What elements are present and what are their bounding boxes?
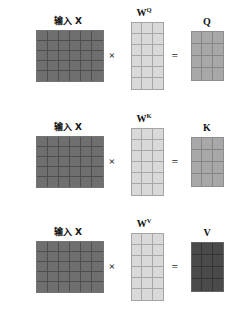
matrix-cell <box>92 41 103 51</box>
matrix-cell <box>37 272 48 282</box>
matrix-cell <box>153 140 163 151</box>
matrix-cell <box>48 61 59 71</box>
matrix-cell <box>132 56 142 67</box>
equation-row-v: 输入 X × WV = V <box>0 211 235 317</box>
matrix-cell <box>202 150 212 162</box>
matrix-cell <box>153 267 163 278</box>
matrix-cell <box>132 245 142 256</box>
matrix-cell <box>81 272 92 282</box>
weight-label-base-k: W <box>136 113 146 124</box>
matrix-cell <box>132 78 142 89</box>
matrix-cell <box>142 289 152 300</box>
output-label-k: K <box>186 123 228 133</box>
matrix-cell <box>132 67 142 78</box>
output-label-v: V <box>186 228 228 238</box>
matrix-cell <box>153 289 163 300</box>
matrix-cell <box>142 78 152 89</box>
matrix-cell <box>92 51 103 61</box>
matrix-cell <box>202 68 212 80</box>
matrix-cell <box>59 61 70 71</box>
matrix-cell <box>70 147 81 157</box>
matrix-cell <box>142 67 152 78</box>
matrix-cell <box>48 137 59 147</box>
matrix-cell <box>70 167 81 177</box>
matrix-cell <box>37 51 48 61</box>
matrix-cell <box>70 71 81 81</box>
matrix-cell <box>132 34 142 45</box>
matrix-cell <box>153 256 163 267</box>
matrix-cell <box>59 51 70 61</box>
matrix-cell <box>48 262 59 272</box>
matrix-cell <box>70 262 81 272</box>
matrix-cell <box>213 150 223 162</box>
matrix-cell <box>202 255 212 267</box>
matrix-cell <box>192 174 202 186</box>
matrix-cell <box>132 278 142 289</box>
matrix-cell <box>70 177 81 187</box>
matrix-cell <box>142 34 152 45</box>
matrix-cell <box>153 78 163 89</box>
matrix-cell <box>192 56 202 68</box>
matrix-cell <box>92 177 103 187</box>
matrix-cell <box>202 44 212 56</box>
matrix-cell <box>213 56 223 68</box>
matrix-cell <box>142 173 152 184</box>
weight-matrix-v <box>131 233 164 301</box>
matrix-cell <box>81 157 92 167</box>
matrix-cell <box>92 61 103 71</box>
matrix-cell <box>37 71 48 81</box>
matrix-cell <box>142 184 152 195</box>
weight-matrix-k <box>131 128 164 196</box>
matrix-cell <box>202 267 212 279</box>
matrix-cell <box>70 137 81 147</box>
matrix-cell <box>142 45 152 56</box>
matrix-cell <box>132 234 142 245</box>
matrix-cell <box>192 243 202 255</box>
matrix-cell <box>92 71 103 81</box>
matrix-cell <box>192 255 202 267</box>
weight-label-q: WQ <box>120 8 168 18</box>
matrix-cell <box>192 162 202 174</box>
matrix-cell <box>37 31 48 41</box>
matrix-cell <box>37 282 48 292</box>
matrix-cell <box>202 56 212 68</box>
matrix-cell <box>213 255 223 267</box>
matrix-cell <box>92 252 103 262</box>
matrix-cell <box>59 177 70 187</box>
matrix-cell <box>81 252 92 262</box>
matrix-cell <box>142 278 152 289</box>
matrix-cell <box>48 272 59 282</box>
matrix-cell <box>202 243 212 255</box>
weight-label-superscript-k: K <box>146 112 151 119</box>
matrix-cell <box>37 177 48 187</box>
matrix-cell <box>48 242 59 252</box>
matrix-cell <box>192 138 202 150</box>
matrix-cell <box>202 279 212 291</box>
matrix-cell <box>48 167 59 177</box>
matrix-cell <box>81 41 92 51</box>
weight-label-base-v: W <box>137 218 147 229</box>
matrix-cell <box>132 129 142 140</box>
equals-operator-k: = <box>167 156 183 167</box>
matrix-cell <box>70 252 81 262</box>
input-x-matrix-v <box>36 241 104 293</box>
multiply-operator-k: × <box>104 156 120 167</box>
matrix-cell <box>59 157 70 167</box>
equation-row-q: 输入 X × WQ = Q <box>0 0 235 106</box>
matrix-cell <box>70 31 81 41</box>
input-x-label-v: 输入 X <box>32 228 104 237</box>
output-matrix-k <box>191 137 224 187</box>
matrix-cell <box>132 162 142 173</box>
matrix-cell <box>192 267 202 279</box>
matrix-cell <box>153 184 163 195</box>
matrix-cell <box>81 51 92 61</box>
matrix-cell <box>142 151 152 162</box>
matrix-cell <box>142 267 152 278</box>
matrix-cell <box>37 252 48 262</box>
matrix-cell <box>59 41 70 51</box>
matrix-cell <box>192 150 202 162</box>
equals-operator-v: = <box>167 261 183 272</box>
matrix-cell <box>81 137 92 147</box>
multiply-operator-q: × <box>104 50 120 61</box>
matrix-cell <box>48 41 59 51</box>
